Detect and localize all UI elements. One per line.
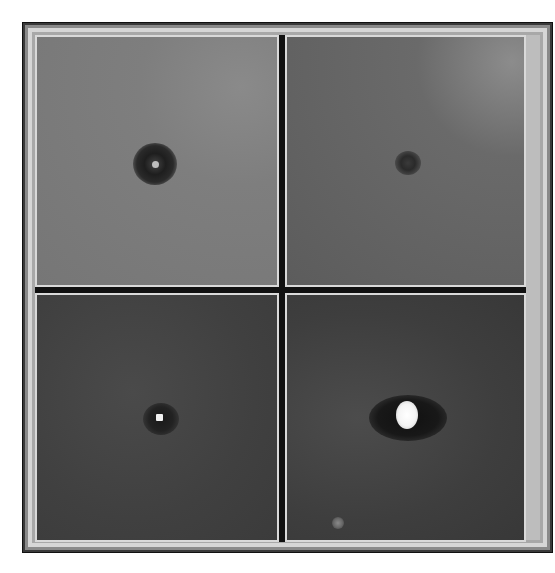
panel-bottom-left xyxy=(35,293,279,542)
bright-point xyxy=(156,414,163,421)
panel-bottom-right xyxy=(285,293,526,542)
bright-center-dot xyxy=(152,161,159,168)
panel-grid xyxy=(35,35,526,542)
bright-blob xyxy=(396,401,418,429)
faint-secondary-spot xyxy=(332,517,344,529)
panel-top-right xyxy=(285,35,526,287)
faint-dark-spot xyxy=(395,151,421,175)
panel-top-left xyxy=(35,35,279,287)
